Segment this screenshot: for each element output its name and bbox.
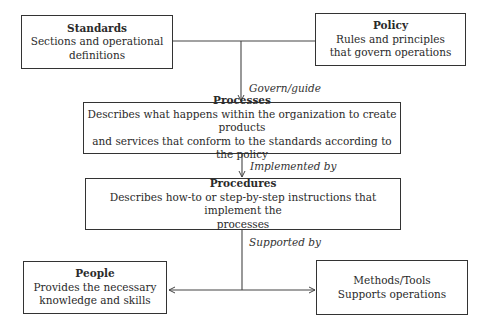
standards-title: Standards: [67, 22, 127, 36]
standards-box: Standards Sections and operational defin…: [21, 15, 173, 69]
supported-by-label: Supported by: [249, 236, 321, 248]
implemented-by-label: Implemented by: [250, 160, 336, 172]
processes-desc-line2: and services that conform to the standar…: [84, 135, 400, 162]
methods-tools-desc: Supports operations: [338, 288, 446, 302]
standards-desc-line2: definitions: [69, 49, 125, 63]
policy-title: Policy: [373, 19, 408, 33]
policy-desc-line2: that govern operations: [330, 46, 452, 60]
processes-title: Processes: [213, 94, 271, 108]
procedures-title: Procedures: [210, 177, 277, 191]
processes-desc-line1: Describes what happens within the organi…: [84, 108, 400, 135]
govern-guide-label: Govern/guide: [249, 82, 321, 94]
people-desc-line2: knowledge and skills: [39, 294, 150, 308]
methods-tools-title: Methods/Tools: [353, 274, 431, 288]
policy-desc-line1: Rules and principles: [336, 33, 445, 47]
processes-box: Processes Describes what happens within …: [83, 102, 401, 154]
people-box: People Provides the necessary knowledge …: [23, 261, 167, 314]
standards-desc-line1: Sections and operational: [31, 35, 164, 49]
procedures-desc-line1: Describes how-to or step-by-step instruc…: [86, 191, 400, 218]
people-title: People: [75, 267, 114, 281]
policy-box: Policy Rules and principles that govern …: [315, 13, 466, 66]
people-desc-line1: Provides the necessary: [34, 281, 157, 295]
procedures-box: Procedures Describes how-to or step-by-s…: [85, 178, 401, 230]
methods-tools-box: Methods/Tools Supports operations: [316, 260, 468, 315]
procedures-desc-line2: processes: [217, 218, 270, 232]
